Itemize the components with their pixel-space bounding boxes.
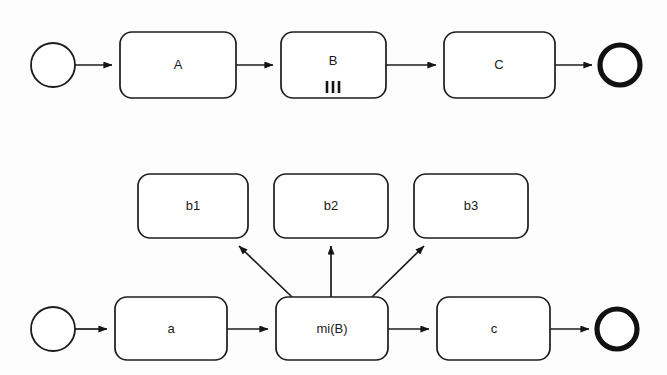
task-a-lower-label: a xyxy=(167,321,175,336)
flow-mib-to-b1 xyxy=(239,246,292,297)
task-a-label: A xyxy=(174,57,183,72)
task-b2-label: b2 xyxy=(324,198,338,213)
start-event-top[interactable] xyxy=(31,43,75,87)
task-b3-label: b3 xyxy=(464,198,478,213)
process-row-collapsed: A B C xyxy=(31,32,640,98)
diagram-canvas: A B C b1 b2 b3 xyxy=(0,0,667,375)
task-c-label: C xyxy=(494,57,503,72)
bpmn-diagram: A B C b1 b2 b3 xyxy=(0,0,667,375)
end-event-bottom[interactable] xyxy=(597,309,637,349)
flow-mib-to-b3 xyxy=(372,246,424,297)
process-row-expanded: b1 b2 b3 a mi(B) c xyxy=(31,174,637,360)
task-mi-b-label: mi(B) xyxy=(316,321,347,336)
end-event-top[interactable] xyxy=(600,45,640,85)
start-event-bottom[interactable] xyxy=(31,307,75,351)
task-b-label: B xyxy=(329,53,338,68)
task-c-lower-label: c xyxy=(491,321,498,336)
task-b1-label: b1 xyxy=(186,198,200,213)
